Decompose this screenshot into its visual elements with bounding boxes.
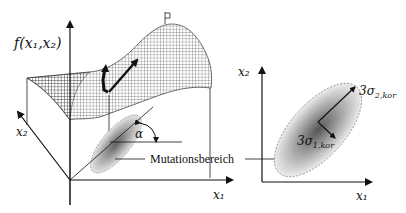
- function-label: f(x₁,x₂): [13, 35, 62, 51]
- right-x2-axis-label: x₂: [238, 65, 250, 79]
- sigma2-label: 3σ2,kor: [359, 84, 397, 100]
- x1-axis-label: x₁: [213, 188, 225, 202]
- mutation-label: Mutationsbereich: [150, 152, 234, 166]
- right-x1-axis-label: x₁: [356, 189, 368, 203]
- mutation-diagram: f(x₁,x₂) x₁ x₂ α Mutationsbereich x₂: [0, 0, 406, 213]
- angle-label: α: [135, 127, 143, 141]
- right-2d-plot: x₂ x₁ 3σ2,kor 3σ1,kor: [238, 65, 397, 203]
- optimum-flag-icon: [165, 12, 170, 24]
- x2-axis-label: x₂: [16, 125, 28, 139]
- left-3d-plot: f(x₁,x₂) x₁ x₂ α Mutationsbereich: [13, 12, 275, 205]
- x2-axis: [18, 112, 70, 180]
